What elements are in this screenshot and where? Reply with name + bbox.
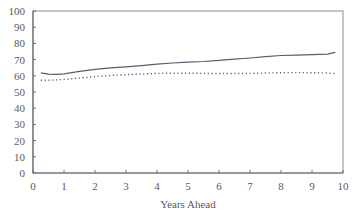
x-tick-label: 7 <box>247 180 253 192</box>
x-tick-label: 2 <box>92 180 98 192</box>
x-tick-label: 3 <box>123 180 129 192</box>
plot-frame <box>33 11 343 173</box>
y-tick-label: 70 <box>14 54 26 66</box>
y-axis: 0102030405060708090100 <box>9 5 37 179</box>
x-axis-title: Years Ahead <box>160 198 216 210</box>
y-tick-label: 10 <box>14 151 26 163</box>
x-tick-label: 10 <box>338 180 350 192</box>
series-group <box>41 52 336 80</box>
series-line-solid <box>41 52 336 74</box>
line-chart: 0102030405060708090100 012345678910 Year… <box>0 0 354 214</box>
y-tick-label: 60 <box>14 70 26 82</box>
x-tick-label: 8 <box>278 180 284 192</box>
x-tick-label: 6 <box>216 180 222 192</box>
x-tick-label: 1 <box>61 180 67 192</box>
y-tick-label: 20 <box>14 135 26 147</box>
y-tick-label: 50 <box>14 86 26 98</box>
y-tick-label: 90 <box>14 21 26 33</box>
x-tick-label: 0 <box>30 180 36 192</box>
x-tick-label: 9 <box>309 180 315 192</box>
y-tick-label: 100 <box>9 5 26 17</box>
x-tick-label: 5 <box>185 180 191 192</box>
y-tick-label: 0 <box>20 167 26 179</box>
x-tick-label: 4 <box>154 180 160 192</box>
y-tick-label: 30 <box>14 118 26 130</box>
y-tick-label: 40 <box>14 102 26 114</box>
series-line-dotted <box>41 73 336 81</box>
y-tick-label: 80 <box>14 37 26 49</box>
